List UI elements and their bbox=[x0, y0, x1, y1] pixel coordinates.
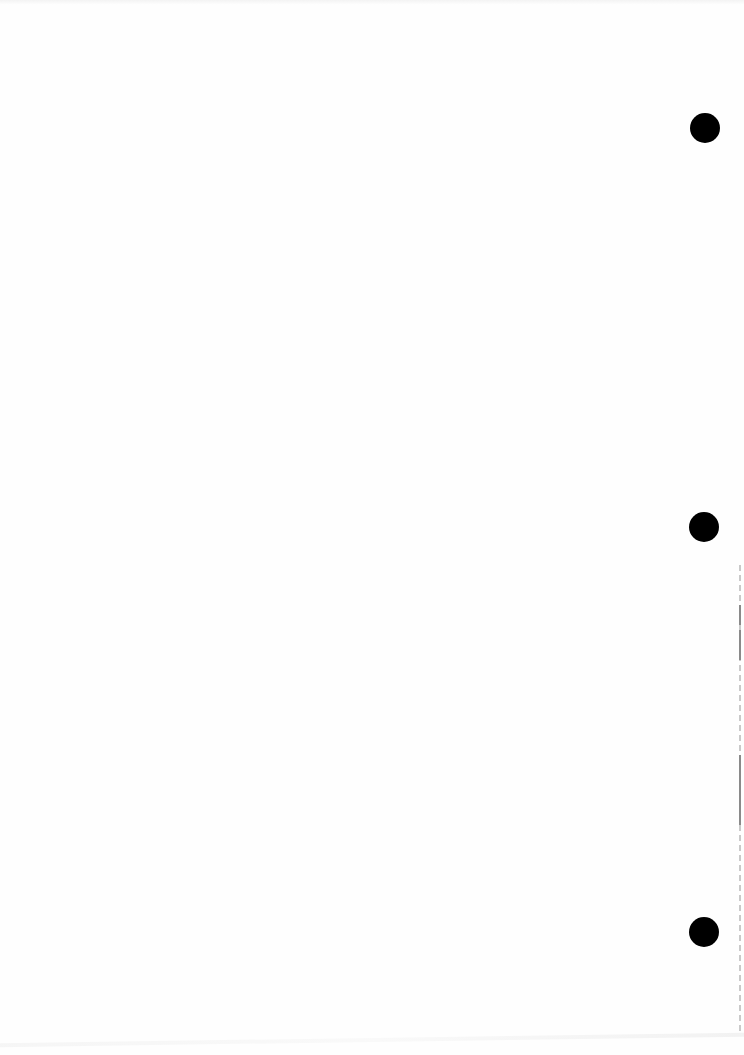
scan-top-shadow bbox=[0, 0, 744, 5]
punch-hole-middle bbox=[689, 512, 719, 542]
blank-page bbox=[0, 0, 744, 1055]
scan-bottom-shadow bbox=[0, 1033, 744, 1047]
punch-hole-top bbox=[690, 113, 720, 143]
punch-hole-bottom bbox=[689, 917, 719, 947]
page-edge-line bbox=[739, 565, 741, 1035]
